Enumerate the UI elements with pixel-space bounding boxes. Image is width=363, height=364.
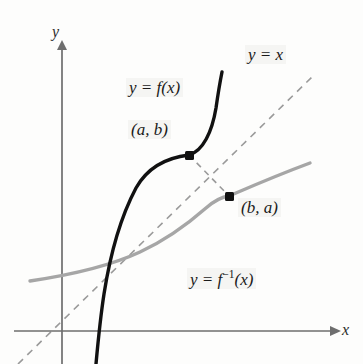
curve-function bbox=[96, 72, 222, 364]
x-axis-arrowhead bbox=[330, 326, 341, 336]
reflection-connector-dashed bbox=[189, 155, 229, 196]
point-marker-ba bbox=[225, 192, 234, 201]
inverse-label-suffix: (x) bbox=[235, 270, 254, 289]
point-marker-ab bbox=[185, 151, 194, 160]
inverse-function-figure: y = f(x) (a, b) y = x (b, a) y = f−1(x) … bbox=[0, 0, 363, 364]
y-axis-label: y bbox=[52, 24, 59, 40]
y-axis-arrowhead bbox=[57, 40, 67, 50]
point-label-ba: (b, a) bbox=[238, 198, 281, 217]
curve-inverse-function bbox=[30, 163, 310, 281]
identity-line-label: y = x bbox=[245, 45, 286, 64]
function-label: y = f(x) bbox=[126, 78, 183, 97]
inverse-function-label: y = f−1(x) bbox=[187, 268, 256, 289]
x-axis-label: x bbox=[342, 322, 349, 338]
graph-canvas bbox=[0, 0, 363, 364]
point-label-ab: (a, b) bbox=[128, 120, 171, 139]
inverse-label-exponent: −1 bbox=[222, 268, 234, 281]
inverse-label-prefix: y = f bbox=[190, 270, 222, 289]
